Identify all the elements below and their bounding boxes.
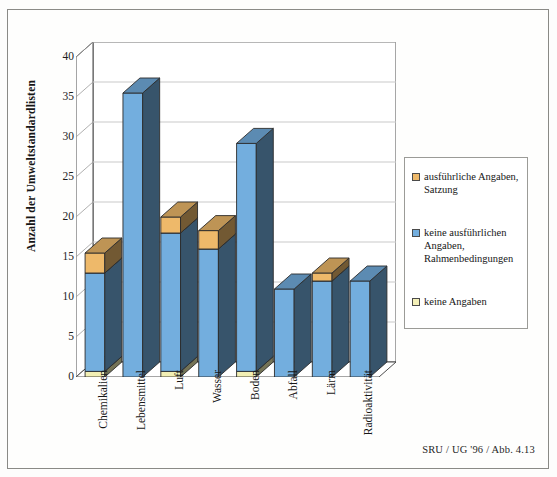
legend-swatch-icon [412,173,420,181]
y-tick-label-5: 5 [48,331,74,343]
bar-face-front [199,249,219,377]
y-tick-label-40: 40 [48,51,74,63]
y-tick-label-35: 35 [48,91,74,103]
y-tick-label-0: 0 [48,371,74,383]
legend-label: keine ausführlichen Angaben, Rahmenbedin… [424,226,524,265]
y-axis-tick-labels: 0510152025303540 [40,42,74,377]
bar-face-side [181,218,198,371]
bar-face-side [370,266,387,377]
legend-label: keine Angaben [424,295,487,308]
x-axis-tick-labels: ChemikalienLebensmittelLuftWasserBodenAb… [76,372,406,467]
bar-face-side [218,234,235,377]
bar-face-front [312,273,332,281]
bar-face-front [199,231,219,249]
figure-caption: SRU / UG '96 / Abb. 4.13 [422,444,535,455]
bar-face-front [312,281,332,377]
y-tick-label-30: 30 [48,131,74,143]
x-tick-label-3: Wasser [211,370,223,460]
figure-chart-umweltstandardlisten: Anzahl der Umweltstandardlisten 05101520… [0,0,557,477]
bar-face-front [350,281,370,377]
bar-abfall-segment-0 [274,274,311,377]
x-tick-label-7: Radioaktivität [362,370,374,460]
bar-boden-segment-1 [237,128,274,371]
bar-face-side [294,274,311,377]
bar-face-front [237,143,257,371]
bar-lebensmittel-segment-0 [123,78,160,377]
x-tick-label-0: Chemikalien [97,370,109,460]
bar-face-front [274,289,294,377]
x-tick-label-5: Abfall [287,370,299,460]
bar-face-front [85,273,105,371]
plot-area [76,42,396,377]
legend: ausführliche Angaben, Satzungkeine ausfü… [404,157,528,329]
bar-face-front [85,253,105,273]
legend-item-0: ausführliche Angaben, Satzung [412,170,524,196]
bar-chemikalien-segment-1 [85,258,122,371]
plot-svg [76,42,396,377]
bar-face-front [161,217,181,233]
x-tick-label-6: Lärm [325,370,337,460]
bar-radioaktivitt-segment-0 [350,266,387,377]
bar-face-front [123,93,143,377]
bar-luft-segment-1 [161,218,198,371]
legend-label: ausführliche Angaben, Satzung [424,170,524,196]
x-tick-label-1: Lebensmittel [135,370,147,460]
x-tick-label-2: Luft [173,370,185,460]
bar-face-side [332,266,349,377]
bar-face-side [105,258,122,371]
bar-face-side [143,78,160,377]
legend-item-2: keine Angaben [412,295,524,308]
bar-lrm-segment-0 [312,266,349,377]
x-tick-label-4: Boden [249,370,261,460]
legend-swatch-icon [412,298,420,306]
bar-wasser-segment-0 [199,234,236,377]
legend-item-1: keine ausführlichen Angaben, Rahmenbedin… [412,226,524,265]
y-tick-label-20: 20 [48,211,74,223]
y-tick-label-25: 25 [48,171,74,183]
y-axis-title: Anzahl der Umweltstandardlisten [25,71,37,261]
bar-face-side [256,128,273,371]
bar-face-front [161,233,181,371]
y-tick-label-15: 15 [48,251,74,263]
y-tick-label-10: 10 [48,291,74,303]
legend-swatch-icon [412,229,420,237]
